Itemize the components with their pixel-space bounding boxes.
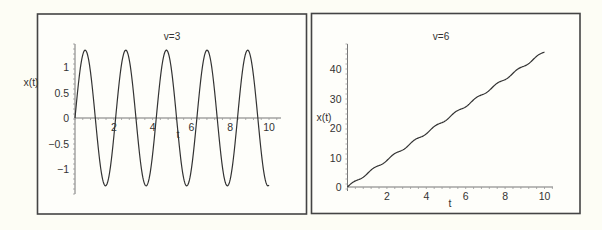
y-tick-label: 0 [336,181,342,193]
plot-title: v=6 [433,31,450,42]
plot-title: v=3 [164,31,181,42]
x-tick-label: 6 [463,190,469,202]
y-tick-label: −1 [57,163,69,175]
x-tick-label: 10 [263,121,275,133]
chart-canvas: v=3 x(t) t 246810−1−0.500.51 v=6 x(t) t … [0,0,602,230]
x-axis-label: t [449,197,452,209]
x-tick-label: 2 [384,190,390,202]
plot-panel-right: v=6 x(t) t 246810010203040 [312,14,581,214]
y-tick-label: 1 [63,61,69,73]
x-tick-label: 10 [539,190,551,202]
y-tick-label: 10 [330,152,342,164]
plot-panel-left: v=3 x(t) t 246810−1−0.500.51 [23,14,306,214]
y-tick-label: 0 [63,112,69,124]
y-axis-label: x(t) [23,76,38,88]
y-tick-label: 20 [330,122,342,134]
y-tick-label: 30 [330,93,342,105]
x-tick-label: 8 [502,190,508,202]
x-tick-label: 8 [227,121,233,133]
y-tick-label: 0.5 [54,87,69,99]
y-axis-label: x(t) [316,111,331,123]
x-tick-label: 4 [423,190,429,202]
y-tick-label: −0.5 [48,138,69,150]
x-tick-label: 6 [188,121,194,133]
figure: v=3 x(t) t 246810−1−0.500.51 v=6 x(t) t … [0,0,602,230]
y-tick-label: 40 [330,63,342,75]
